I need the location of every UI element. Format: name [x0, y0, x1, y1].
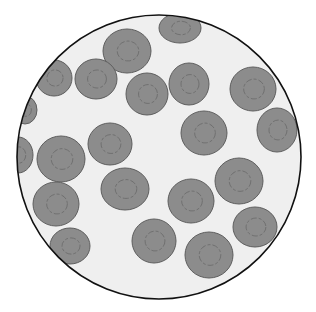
red-blood-cell [159, 13, 201, 43]
red-blood-cell [33, 182, 79, 226]
red-blood-cell [168, 179, 214, 223]
red-blood-cell [257, 108, 297, 152]
red-blood-cell [185, 232, 233, 278]
red-blood-cell [75, 59, 117, 99]
red-blood-cell [233, 207, 277, 247]
red-blood-cell [37, 136, 85, 182]
red-blood-cell [215, 158, 263, 204]
microscope-field [0, 0, 316, 312]
red-blood-cell [169, 63, 209, 105]
red-blood-cell [50, 228, 90, 264]
red-blood-cell [88, 123, 132, 165]
red-blood-cell [230, 67, 276, 111]
red-blood-cell [181, 111, 227, 155]
red-blood-cell [126, 73, 168, 115]
red-blood-cell [132, 219, 176, 263]
red-blood-cell [101, 168, 149, 210]
